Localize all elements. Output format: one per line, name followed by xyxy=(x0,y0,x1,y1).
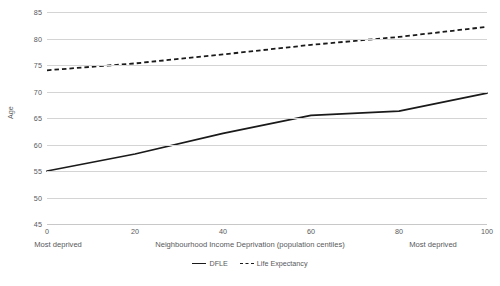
gridline xyxy=(47,65,487,66)
y-axis-title: Age xyxy=(6,106,15,119)
legend-item-life-expectancy: Life Expectancy xyxy=(240,259,308,268)
gridline xyxy=(47,145,487,146)
x-tick-label: 20 xyxy=(115,227,155,236)
y-tick-label: 75 xyxy=(16,61,42,70)
y-tick-label: 50 xyxy=(16,194,42,203)
gridline xyxy=(47,12,487,13)
x-tick-label: 60 xyxy=(291,227,331,236)
axis-note-left: Most deprived xyxy=(3,240,113,249)
series-line-dfle xyxy=(47,93,487,171)
gridline xyxy=(47,198,487,199)
axis-note-right: Most deprived xyxy=(378,240,488,249)
y-tick-label: 70 xyxy=(16,88,42,97)
x-tick-label: 0 xyxy=(27,227,67,236)
x-tick-label: 40 xyxy=(203,227,243,236)
legend-swatch-solid-icon xyxy=(192,263,206,264)
legend-label-dfle: DFLE xyxy=(209,259,227,268)
y-tick-label: 65 xyxy=(16,114,42,123)
legend-item-dfle: DFLE xyxy=(192,259,227,268)
y-tick-label: 85 xyxy=(16,8,42,17)
chart-container: Age 455055606570758085 020406080100 Neig… xyxy=(0,0,500,286)
legend-swatch-dashed-icon xyxy=(240,263,254,264)
gridline xyxy=(47,92,487,93)
legend-label-life-expectancy: Life Expectancy xyxy=(257,259,308,268)
chart-legend: DFLE Life Expectancy xyxy=(0,259,500,268)
y-tick-label: 55 xyxy=(16,167,42,176)
y-tick-label: 80 xyxy=(16,35,42,44)
gridline xyxy=(47,39,487,40)
x-tick-label: 100 xyxy=(467,227,500,236)
gridline xyxy=(47,118,487,119)
y-tick-label: 60 xyxy=(16,141,42,150)
x-tick-label: 80 xyxy=(379,227,419,236)
plot-area xyxy=(47,12,487,224)
series-line-life-expectancy xyxy=(47,27,487,70)
gridline xyxy=(47,171,487,172)
gridline xyxy=(47,224,487,225)
